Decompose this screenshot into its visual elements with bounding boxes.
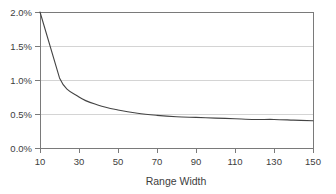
x-tick-label-7: 150 <box>305 156 321 167</box>
x-tick-label-3: 70 <box>152 156 163 167</box>
x-tick-label-2: 50 <box>113 156 124 167</box>
x-axis-title: Range Width <box>146 175 207 187</box>
x-tick-label-5: 110 <box>227 156 242 167</box>
y-tick-label-3: 1.5% <box>10 41 32 52</box>
y-tick-label-2: 1.0% <box>10 75 32 86</box>
x-tick-label-6: 130 <box>266 156 282 167</box>
y-tick-label-0: 0.0% <box>10 143 32 154</box>
x-tick-label-4: 90 <box>191 156 202 167</box>
x-tick-label-1: 30 <box>74 156 85 167</box>
x-tick-label-0: 10 <box>35 156 46 167</box>
line-chart: 0.0% 0.5% 1.0% 1.5% 2.0% 10 30 50 70 90 … <box>0 0 336 194</box>
chart-container: 0.0% 0.5% 1.0% 1.5% 2.0% 10 30 50 70 90 … <box>0 0 336 194</box>
y-tick-label-1: 0.5% <box>10 109 32 120</box>
y-tick-label-4: 2.0% <box>10 7 32 18</box>
